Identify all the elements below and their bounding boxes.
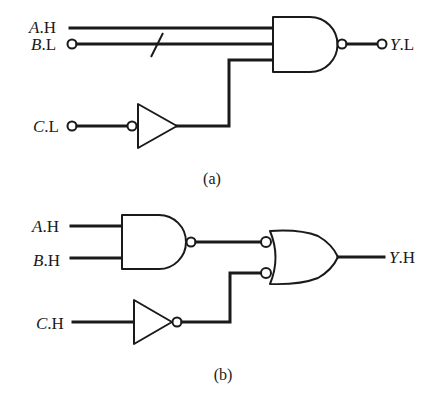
- output-label-a: Y.L: [390, 35, 414, 54]
- diagram-b: A.H B.H C.H Y.H (b): [31, 215, 415, 384]
- diagram-a: A.H B.L C.L Y.L (a): [28, 17, 414, 188]
- wire-a-inverter-out: [177, 60, 273, 126]
- input-label-a-B: B.L: [31, 35, 56, 54]
- input-label-b-A: A.H: [31, 217, 59, 236]
- input-label-b-C: C.H: [36, 314, 64, 333]
- or-gate-b: [270, 231, 338, 285]
- caption-b: (b): [214, 366, 233, 384]
- nand-gate-b: [122, 215, 186, 269]
- input-label-a-C: C.L: [33, 117, 59, 136]
- input-bubble-a-B: [68, 40, 77, 49]
- output-label-b: Y.H: [389, 248, 415, 267]
- inverter-input-bubble: [128, 122, 137, 131]
- nand-output-bubble: [338, 40, 347, 49]
- or-input-bubble-2: [261, 268, 271, 278]
- nand-gate-a: [273, 17, 337, 72]
- inverter-gate-b: [134, 300, 172, 344]
- nand-b-output-bubble: [187, 238, 196, 247]
- or-input-bubble-1: [261, 237, 271, 247]
- wire-b-inverter-out: [182, 273, 261, 322]
- input-label-b-B: B.H: [33, 251, 60, 270]
- logic-circuit-diagram: A.H B.L C.L Y.L (a) A.H B.H C.H: [0, 0, 444, 393]
- caption-a: (a): [203, 170, 221, 188]
- output-bubble-a: [378, 40, 387, 49]
- inverter-gate-a: [138, 104, 177, 148]
- inverter-b-output-bubble: [173, 318, 182, 327]
- input-bubble-a-C: [68, 122, 77, 131]
